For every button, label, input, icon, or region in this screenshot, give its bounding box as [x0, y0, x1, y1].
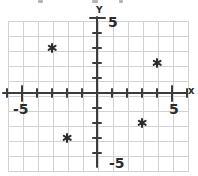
y-tick: [92, 137, 102, 139]
x-tick: [141, 88, 143, 98]
x-tick: [51, 88, 53, 98]
x-axis-label: x: [188, 86, 194, 96]
y-tick: [89, 17, 106, 19]
plotted-point: [152, 58, 162, 68]
y-axis: [96, 16, 98, 168]
x-min-tick-label: -5: [13, 102, 29, 116]
y-tick: [92, 62, 102, 64]
x-tick: [21, 85, 23, 102]
plotted-point: [137, 118, 147, 128]
y-tick: [92, 122, 102, 124]
y-tick: [92, 152, 102, 154]
x-tick: [81, 88, 83, 98]
y-tick: [92, 107, 102, 109]
x-tick: [66, 88, 68, 98]
y-tick: [92, 32, 102, 34]
x-tick: [111, 88, 113, 98]
cropped-text-fragment: [92, 0, 98, 3]
x-tick: [171, 85, 173, 102]
y-min-tick-label: -5: [109, 156, 125, 170]
cropped-text-fragment: [38, 0, 43, 3]
cropped-text-fragment: [119, 0, 123, 3]
x-tick: [156, 88, 158, 98]
plotted-point: [47, 43, 57, 53]
y-tick: [92, 77, 102, 79]
x-tick: [126, 88, 128, 98]
x-tick: [6, 88, 8, 98]
y-axis-label: Y: [96, 6, 103, 15]
x-tick: [36, 88, 38, 98]
y-max-tick-label: 5: [108, 15, 118, 29]
plotted-point: [62, 133, 72, 143]
x-max-tick-label: 5: [169, 102, 179, 116]
coordinate-plane: Y x 5 -5 -5 5: [0, 0, 198, 176]
y-tick: [92, 47, 102, 49]
x-axis: [2, 92, 187, 94]
